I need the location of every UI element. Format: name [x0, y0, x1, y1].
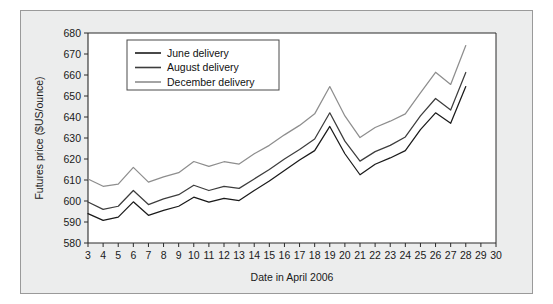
y-tick-label: 650: [63, 90, 81, 102]
y-tick-label: 680: [63, 27, 81, 39]
x-tick-label: 8: [161, 249, 167, 261]
y-tick-label: 660: [63, 69, 81, 81]
x-tick-label: 4: [100, 249, 106, 261]
x-tick-label: 30: [490, 249, 502, 261]
y-tick-label: 580: [63, 237, 81, 249]
x-tick-label: 11: [203, 249, 214, 261]
figure-frame: 5805906006106206306406506606706803456789…: [20, 10, 533, 294]
futures-price-line-chart: 5805906006106206306406506606706803456789…: [21, 11, 532, 293]
x-tick-label: 22: [369, 249, 381, 261]
x-tick-label: 6: [130, 249, 136, 261]
x-tick-label: 28: [460, 249, 472, 261]
x-tick-label: 24: [399, 249, 411, 261]
y-tick-label: 620: [63, 153, 81, 165]
legend-label-december-delivery: December delivery: [167, 76, 255, 88]
y-tick-label: 640: [63, 111, 81, 123]
y-tick-label: 600: [63, 195, 81, 207]
y-tick-label: 610: [63, 174, 81, 186]
x-tick-label: 25: [415, 249, 427, 261]
legend-label-august-delivery: August delivery: [167, 61, 240, 73]
x-tick-label: 9: [176, 249, 182, 261]
x-tick-label: 20: [339, 249, 351, 261]
x-tick-label: 16: [279, 249, 291, 261]
x-tick-label: 18: [309, 249, 321, 261]
x-axis-title: Date in April 2006: [251, 271, 334, 283]
x-tick-label: 14: [248, 249, 260, 261]
x-tick-label: 19: [324, 249, 336, 261]
x-tick-label: 23: [384, 249, 396, 261]
x-tick-label: 3: [85, 249, 91, 261]
x-tick-label: 5: [115, 249, 121, 261]
y-tick-label: 670: [63, 48, 81, 60]
x-tick-label: 13: [233, 249, 245, 261]
x-tick-label: 17: [294, 249, 306, 261]
x-tick-label: 10: [188, 249, 200, 261]
legend-label-june-delivery: June delivery: [167, 47, 230, 59]
x-tick-label: 26: [430, 249, 442, 261]
y-axis-title: Futures price ($US/ounce): [33, 76, 45, 199]
x-tick-label: 21: [354, 249, 366, 261]
x-tick-label: 7: [146, 249, 152, 261]
y-tick-label: 590: [63, 216, 81, 228]
x-tick-label: 27: [445, 249, 457, 261]
x-tick-label: 15: [263, 249, 275, 261]
x-tick-label: 29: [475, 249, 487, 261]
y-tick-label: 630: [63, 132, 81, 144]
x-tick-label: 12: [218, 249, 230, 261]
